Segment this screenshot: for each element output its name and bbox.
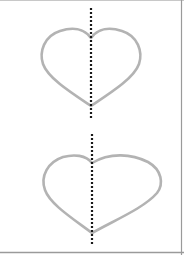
worksheet-frame [0,0,184,255]
symmetry-diagram [0,0,184,255]
bottom-heart-outline [44,155,161,233]
